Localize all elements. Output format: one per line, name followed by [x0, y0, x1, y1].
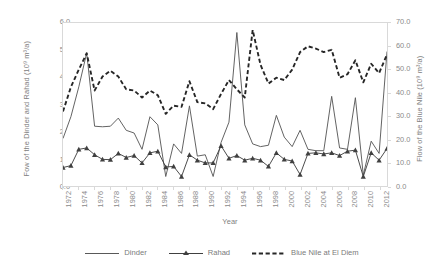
x-tickmark: [380, 187, 381, 190]
x-tickmark: [285, 187, 286, 190]
x-tick-label: 2004: [320, 191, 327, 207]
x-tickmark: [78, 187, 79, 190]
data-point-marker: [195, 158, 200, 163]
chart-legend: DinderRahadBlue Nile at El Diem: [0, 243, 444, 263]
legend-label: Rahad: [208, 249, 230, 257]
x-tickmark: [253, 187, 254, 190]
data-point-marker: [297, 172, 302, 177]
legend-item-blue-nile-at-el-diem[interactable]: Blue Nile at El Diem: [252, 249, 359, 258]
x-tickmark: [348, 187, 349, 190]
x-tick-label: 2006: [336, 191, 343, 207]
x-tick-label: 1990: [208, 191, 215, 207]
series-line-blue-nile-at-el-diem: [63, 30, 387, 114]
legend-key-icon: [252, 249, 286, 258]
x-tickmark: [94, 187, 95, 190]
y-tick-label-right: 60.0: [396, 42, 436, 49]
y-tickmark-right: [388, 187, 391, 188]
x-axis-title: Year: [185, 218, 275, 225]
x-tickmark: [301, 187, 302, 190]
x-tick-label: 2000: [288, 191, 295, 207]
data-point-marker: [361, 174, 366, 179]
data-point-marker: [187, 152, 192, 157]
data-point-marker: [132, 153, 137, 158]
x-tick-label: 2008: [351, 191, 358, 207]
y-tickmark-right: [388, 93, 391, 94]
data-point-marker: [84, 145, 89, 150]
y-tick-label-right: 70.0: [396, 18, 436, 25]
x-tick-label: 1974: [81, 191, 88, 207]
y-tickmark-right: [388, 69, 391, 70]
legend-item-dinder[interactable]: Dinder: [85, 249, 146, 258]
y-tick-label-right: 50.0: [396, 65, 436, 72]
y-tick-label-right: 0.0: [396, 183, 436, 190]
legend-key-icon: [169, 249, 203, 258]
x-tickmark: [332, 187, 333, 190]
series-markers-rahad: [63, 143, 387, 178]
x-tick-label: 1978: [113, 191, 120, 207]
data-point-marker: [234, 153, 239, 158]
data-point-marker: [218, 143, 223, 148]
legend-item-rahad[interactable]: Rahad: [169, 249, 230, 258]
x-tick-label: 1982: [145, 191, 152, 207]
plot-svg: [63, 23, 387, 186]
y-tick-label-right: 20.0: [396, 136, 436, 143]
y-tick-label-right: 40.0: [396, 89, 436, 96]
chart-figure: Fow of the Dinder and Rahad (10⁹ m³/a) F…: [0, 0, 444, 271]
x-tickmark: [110, 187, 111, 190]
x-tick-label: 1998: [272, 191, 279, 207]
y-tick-label-right: 30.0: [396, 112, 436, 119]
x-tickmark: [221, 187, 222, 190]
data-point-marker: [116, 151, 121, 156]
y-tickmark-right: [388, 163, 391, 164]
data-point-marker: [68, 163, 73, 168]
x-tick-label: 2010: [367, 191, 374, 207]
x-tick-label: 1992: [224, 191, 231, 207]
plot-area: [62, 22, 388, 187]
legend-label: Blue Nile at El Diem: [291, 249, 359, 257]
data-point-marker: [250, 156, 255, 161]
x-tickmark: [364, 187, 365, 190]
legend-key-icon: [85, 249, 119, 258]
x-tickmark: [205, 187, 206, 190]
data-point-marker: [155, 149, 160, 154]
x-tick-label: 1996: [256, 191, 263, 207]
x-tick-label: 1994: [240, 191, 247, 207]
x-tick-label: 1988: [192, 191, 199, 207]
x-tick-label: 1972: [65, 191, 72, 207]
y-tickmark-right: [388, 140, 391, 141]
data-point-marker: [384, 146, 387, 151]
x-tick-label: 1980: [129, 191, 136, 207]
y-tickmark-right: [388, 116, 391, 117]
legend-label: Dinder: [124, 249, 146, 257]
x-tickmark: [62, 187, 63, 190]
x-tickmark: [237, 187, 238, 190]
x-tick-label: 2012: [383, 191, 390, 207]
x-tick-label: 1976: [97, 191, 104, 207]
y-tickmark-right: [388, 46, 391, 47]
x-tickmark: [189, 187, 190, 190]
x-tick-label: 1986: [177, 191, 184, 207]
x-tickmark: [142, 187, 143, 190]
x-tickmark: [126, 187, 127, 190]
x-tickmark: [173, 187, 174, 190]
x-tickmark: [316, 187, 317, 190]
data-point-marker: [274, 150, 279, 155]
x-tick-label: 2002: [304, 191, 311, 207]
y-tick-label-right: 10.0: [396, 159, 436, 166]
x-tickmark: [269, 187, 270, 190]
x-tickmark: [157, 187, 158, 190]
x-tick-label: 1984: [161, 191, 168, 207]
y-tickmark-right: [388, 22, 391, 23]
